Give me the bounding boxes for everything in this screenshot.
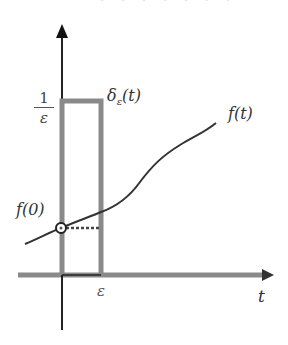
pulse-diagram [0, 0, 288, 345]
pulse-height-denominator: ε [34, 110, 54, 126]
pulse-label: δε(t) [107, 86, 141, 107]
y-axis-arrow-icon [56, 24, 68, 38]
x-axis-label: t [258, 286, 265, 306]
pulse-height-numerator: 1 [34, 90, 54, 106]
fraction-bar [34, 107, 54, 108]
f0-marker-dot [60, 227, 63, 230]
function-label: f(t) [228, 104, 253, 123]
pulse-argument: (t) [122, 86, 141, 105]
delta-pulse [62, 101, 101, 275]
x-axis-arrow-icon [262, 269, 274, 281]
pulse-height-label: 1 ε [34, 90, 54, 126]
f0-label: f(0) [16, 200, 45, 219]
function-curve [25, 123, 216, 244]
epsilon-tick-label: ε [97, 282, 105, 300]
pulse-symbol: δ [107, 86, 117, 105]
